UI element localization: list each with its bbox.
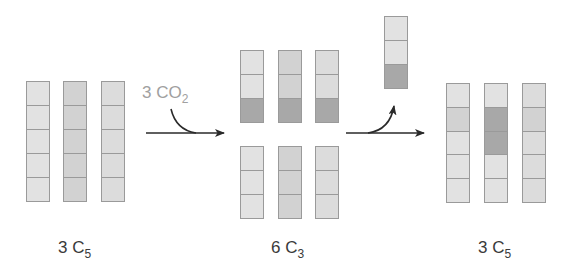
fixation-arrow: [146, 109, 224, 133]
co2-subscript: 2: [182, 92, 189, 106]
left-count: 3: [58, 238, 67, 257]
right-element: C: [492, 238, 504, 257]
right-subscript: 5: [504, 247, 511, 261]
middle-element: C: [285, 238, 297, 257]
calvin-cycle-diagram: 3 CO2 3 C5 6 C3 3 C5: [0, 0, 571, 280]
middle-count: 6: [271, 238, 280, 257]
left-subscript: 5: [84, 247, 91, 261]
co2-input-label: 3 CO2: [142, 83, 188, 103]
co2-count: 3: [142, 83, 151, 102]
left-c5-label: 3 C5: [58, 238, 91, 258]
right-count: 3: [478, 238, 487, 257]
middle-c3-label: 6 C3: [271, 238, 304, 258]
left-element: C: [72, 238, 84, 257]
co2-formula: CO: [156, 83, 182, 102]
right-c5-label: 3 C5: [478, 238, 511, 258]
regeneration-arrow: [346, 106, 424, 133]
middle-subscript: 3: [297, 247, 304, 261]
